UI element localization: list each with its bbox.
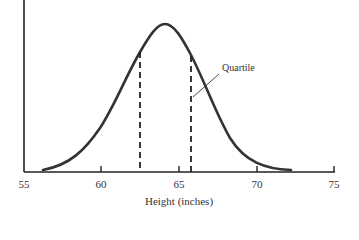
x-tick-label: 65 bbox=[174, 178, 185, 190]
x-tick-label: 70 bbox=[252, 178, 263, 190]
x-tick-label: 60 bbox=[96, 178, 107, 190]
quartile-annotation: Quartile bbox=[222, 62, 255, 73]
x-axis-label: Height (inches) bbox=[145, 195, 213, 207]
x-tick-label: 55 bbox=[19, 178, 30, 190]
x-tick-label: 75 bbox=[329, 178, 340, 190]
x-ticks bbox=[101, 166, 334, 172]
bell-curve bbox=[43, 24, 291, 170]
annotation-leader bbox=[193, 74, 219, 97]
